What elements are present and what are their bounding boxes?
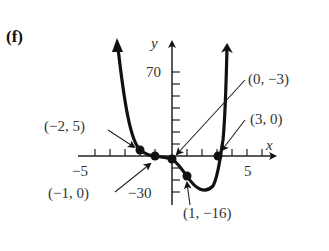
point-label-1-m16: (1, −16) (183, 206, 231, 221)
point-0-m3 (168, 155, 177, 164)
x-axis-label: x (266, 138, 273, 153)
y-axis-label: y (151, 36, 158, 51)
y-tick-neg30: −30 (128, 186, 151, 201)
y-tick-70: 70 (146, 65, 161, 80)
point-label-0-m3: (0, −3) (248, 72, 289, 87)
panel-label: (f) (6, 28, 23, 45)
point-m2-5 (136, 146, 145, 155)
point-1-m16 (183, 172, 192, 181)
point-label-m1-0: (−1, 0) (48, 186, 89, 201)
point-m1-0 (151, 152, 160, 161)
x-tick-neg5: −5 (72, 164, 88, 179)
point-3-0 (214, 152, 223, 161)
key-points (136, 146, 223, 181)
point-label-m2-5: (−2, 5) (44, 119, 85, 134)
point-label-3-0: (3, 0) (250, 112, 283, 127)
x-axis (78, 149, 275, 156)
x-tick-5: 5 (244, 164, 252, 179)
left-arrow-icon (112, 38, 123, 52)
y-axis (172, 42, 180, 205)
